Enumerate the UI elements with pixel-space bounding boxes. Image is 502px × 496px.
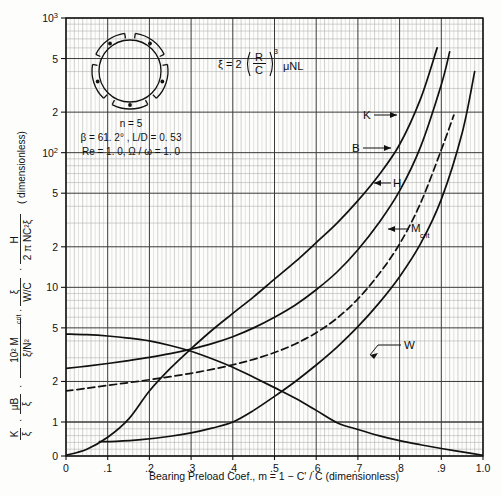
bearing-pad-end bbox=[135, 33, 136, 38]
y-dot-2: · bbox=[15, 385, 26, 388]
y-dot-1: · bbox=[15, 419, 26, 422]
x-tick-label: 1.0 bbox=[476, 462, 491, 474]
bearing-pad-pivot bbox=[96, 80, 100, 84]
xi-equation-paren-num: R bbox=[255, 51, 263, 63]
y-term-b-num: μB bbox=[9, 397, 20, 410]
xi-equation-exponent: 3 bbox=[274, 48, 278, 55]
y-tick-label: 0 bbox=[52, 450, 58, 462]
y-term-m-den: ξ/N² bbox=[22, 338, 34, 356]
y-tick-label: 1 bbox=[52, 416, 58, 428]
curve-label-k: K bbox=[363, 109, 371, 121]
y-term-m-sub: crit bbox=[15, 315, 22, 324]
bearing-pad-pivot bbox=[128, 103, 132, 107]
xi-equation-rhs: μNL bbox=[283, 60, 303, 72]
y-title-tail: ( dimensionless) bbox=[16, 131, 27, 204]
y-tick-label: 5 bbox=[52, 187, 58, 199]
inset-line-re: Re = 1. 0, Ω / ω = 1. 0 bbox=[82, 146, 181, 157]
xi-equation-lhs: ξ = 2 bbox=[218, 58, 242, 70]
y-term-b-den: ξ bbox=[21, 401, 33, 406]
bearing-pad-end bbox=[93, 64, 98, 65]
inset-line-n: n = 5 bbox=[120, 118, 143, 129]
y-tick-label: 2 bbox=[52, 106, 58, 118]
y-term-w-num: ξ bbox=[9, 289, 21, 294]
y-term-h-den: 2 π NC²ξ bbox=[22, 219, 34, 260]
y-term-m-num: 10² M bbox=[9, 337, 20, 363]
y-tick-label: 5 bbox=[52, 53, 58, 65]
curve-label-h: H bbox=[393, 177, 401, 189]
y-term-w-den: W/C bbox=[22, 282, 33, 301]
curve-label-b: B bbox=[352, 142, 360, 154]
y-tick-label: 2 bbox=[52, 375, 58, 387]
xi-equation-paren-den: C bbox=[255, 64, 263, 76]
y-dot-4: · bbox=[15, 268, 26, 271]
curve-label-w: W bbox=[404, 339, 415, 351]
bearing-pad-end bbox=[125, 33, 126, 38]
bearing-pad-pivot bbox=[148, 42, 152, 46]
x-axis-title: Bearing Preload Coef., m = 1 − C' / C (d… bbox=[149, 470, 399, 482]
inset-line-beta: β = 61. 2° , L/D = 0. 53 bbox=[81, 132, 182, 143]
y-term-k-num: K bbox=[9, 430, 20, 437]
y-term-h-num: H bbox=[9, 236, 20, 243]
x-tick-label: .1 bbox=[103, 462, 112, 474]
bearing-pad-end bbox=[162, 64, 167, 65]
x-tick-label: .9 bbox=[437, 462, 446, 474]
bearing-pad-pivot bbox=[160, 80, 164, 84]
x-tick-label: 0 bbox=[63, 462, 69, 474]
y-tick-label: 5 bbox=[52, 322, 58, 334]
y-dot-3: · bbox=[15, 309, 26, 312]
log-chart-svg: 0.1.2.3.4.5.6.7.8.91.0 0125102510225103 … bbox=[0, 0, 502, 496]
figure-root: 0.1.2.3.4.5.6.7.8.91.0 0125102510225103 … bbox=[0, 0, 502, 496]
y-tick-label: 2 bbox=[52, 241, 58, 253]
y-tick-label: 10 bbox=[46, 281, 58, 293]
y-term-k-den: ξ bbox=[21, 431, 33, 436]
curve-label-mcrit-sub: crit bbox=[420, 232, 429, 239]
bearing-pad-pivot bbox=[108, 42, 112, 46]
